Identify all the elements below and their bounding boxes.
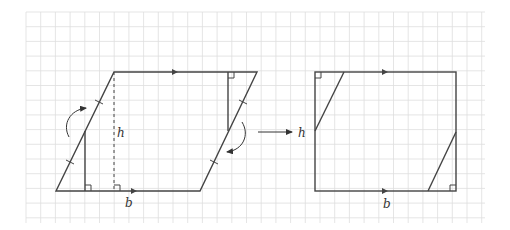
rectangle-base-label: b (383, 197, 391, 211)
parallelogram-to-rectangle-diagram: h b h b (0, 0, 510, 230)
parallel-arrow-icon (382, 188, 388, 194)
rotate-arrow-icon (66, 108, 86, 137)
parallelogram (56, 69, 257, 194)
parallel-arrow-icon (172, 69, 178, 75)
bottom-cut-line (428, 132, 456, 191)
rectangle (315, 69, 456, 194)
parallel-arrow-icon (382, 69, 388, 75)
parallelogram-outline (56, 72, 257, 191)
rectangle-outline (315, 72, 456, 191)
top-cut-line (315, 72, 344, 131)
parallelogram-base-label: b (125, 196, 133, 210)
rotate-arrow-icon (227, 122, 245, 152)
right-angle-marker (228, 72, 234, 78)
rectangle-height-label: h (298, 126, 306, 140)
parallelogram-height-label: h (117, 126, 125, 140)
parallel-arrow-icon (131, 188, 137, 194)
